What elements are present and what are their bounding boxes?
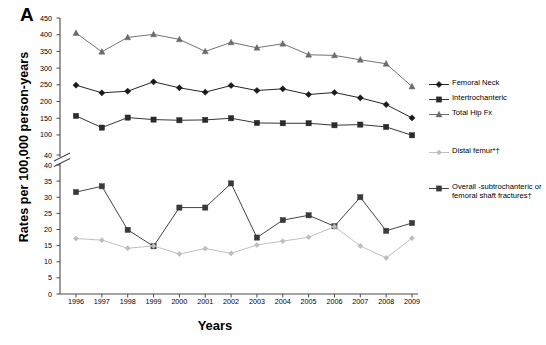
series-4 [73,224,414,260]
y-tick-label: 0 [26,290,52,299]
legend-marker-diamond-small-icon [428,147,450,158]
y-tick-label: 450 [26,14,52,23]
series-3 [73,181,414,249]
legend-item-1: Intertrochanteric [428,93,546,105]
y-tick-label: 150 [26,114,52,123]
chart-canvas [60,14,420,295]
legend-label: Overall -subtrochanteric or femoral shaf… [450,182,546,201]
legend-label: Femoral Neck [450,78,499,87]
y-tick-label: 30 [26,193,52,202]
legend-label: Distal femur*† [450,146,500,155]
y-tick-label: 100 [26,130,52,139]
x-tick-label: 2009 [397,297,427,306]
legend-item-3: Distal femur*† [428,146,546,158]
y-tick-label: 350 [26,47,52,56]
legend-item-0: Femoral Neck [428,78,546,90]
y-tick-label: 10 [26,257,52,266]
y-tick-label: 400 [26,30,52,39]
y-tick-label: 25 [26,209,52,218]
plot-area [60,14,420,295]
series-2 [73,113,414,138]
legend-marker-square-icon [428,94,450,105]
y-tick-label: 250 [26,80,52,89]
y-tick-label: 40 [26,151,52,160]
legend-label: Intertrochanteric [450,93,507,102]
legend-label: Total Hip Fx [450,108,492,117]
legend-marker-square-icon [428,183,450,194]
y-tick-label: 35 [26,177,52,186]
y-tick-label: 300 [26,64,52,73]
y-tick-label: 20 [26,225,52,234]
legend-marker-diamond-icon [428,79,450,90]
series-0 [73,30,415,89]
chart-legend: Femoral NeckIntertrochantericTotal Hip F… [428,78,546,204]
y-tick-label: 40 [26,161,52,170]
legend-marker-triangle-icon [428,109,450,120]
x-axis-title: Years [0,318,430,333]
legend-item-4: Overall -subtrochanteric or femoral shaf… [428,182,546,201]
figure-panel-a: A Rates per 100,000 person-years Years 1… [0,0,546,345]
legend-item-2: Total Hip Fx [428,108,546,120]
y-tick-label: 15 [26,241,52,250]
series-1 [73,79,415,121]
y-tick-label: 200 [26,97,52,106]
y-tick-label: 5 [26,273,52,282]
